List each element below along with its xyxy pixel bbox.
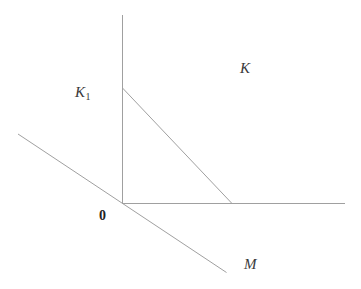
label-cone-k: K [240,61,251,76]
label-origin: 0 [99,209,106,223]
label-subspace-m: M [244,257,257,272]
label-subcone-k1: K1 [75,85,91,102]
subcone-boundary-line [123,88,233,204]
diagram-lines [0,0,361,289]
diagram-canvas: K1 K 0 M [0,0,361,289]
label-subcone-k1-base: K [75,84,86,100]
label-subcone-k1-subscript: 1 [86,91,92,102]
